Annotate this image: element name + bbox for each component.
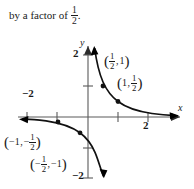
paren-close: ): [124, 54, 129, 69]
coord-comma: ,: [128, 78, 131, 88]
coord-comma: ,: [48, 159, 51, 169]
coord-x-value: 1: [122, 78, 127, 88]
label-point-one-half: ( 1 , 1 2 ): [117, 74, 142, 92]
label-point-neghalf-neg-one: ( − 1 2 , − 1 ): [30, 155, 67, 173]
y-tick-label-2: 2: [73, 48, 79, 59]
coord-x-numerator: 1: [41, 155, 47, 164]
coord-comma: ,: [20, 137, 23, 147]
coord-x-denominator: 2: [109, 62, 115, 71]
point-neghalf-neg-one-dot: [78, 130, 83, 135]
label-point-half-one: ( 1 2 , 1 ): [104, 52, 129, 70]
x-axis-label: x: [178, 103, 182, 113]
paren-close: ): [137, 76, 142, 91]
coord-x-denominator: 2: [41, 165, 47, 174]
coord-x-fraction: 1 2: [41, 155, 47, 173]
y-tick-label-neg2: −2: [72, 170, 84, 181]
point-neg-one-neghalf-dot: [56, 120, 61, 125]
x-tick-label-neg2: −2: [22, 88, 34, 99]
point-half-one-dot: [101, 84, 106, 89]
label-point-neg-one-neghalf: ( − 1 , − 1 2 ): [4, 133, 41, 151]
coord-x-fraction: 1 2: [109, 52, 115, 70]
x-tick-label-2: 2: [143, 120, 149, 131]
paren-close: ): [62, 157, 67, 172]
y-axis-arrow-icon: [84, 46, 92, 55]
coord-comma: ,: [116, 56, 119, 66]
coord-x-numerator: 1: [109, 52, 115, 61]
coord-x-value: 1: [15, 137, 20, 147]
curve-arrow-top-icon: [91, 46, 99, 55]
point-one-half-dot: [116, 99, 121, 104]
paren-close: ): [36, 135, 41, 150]
y-axis-label: y: [80, 38, 84, 48]
curve-arrow-bottom-icon: [100, 169, 108, 178]
